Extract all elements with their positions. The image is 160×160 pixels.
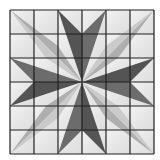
grid-cell	[106, 130, 130, 154]
grid-cell	[130, 106, 154, 130]
grid-cell	[130, 34, 154, 58]
grid-cell	[34, 130, 58, 154]
star-quilt-block	[0, 0, 160, 160]
grid-cell	[106, 10, 130, 34]
grid-cell	[10, 106, 34, 130]
grid-cell	[34, 10, 58, 34]
grid-cell	[10, 34, 34, 58]
